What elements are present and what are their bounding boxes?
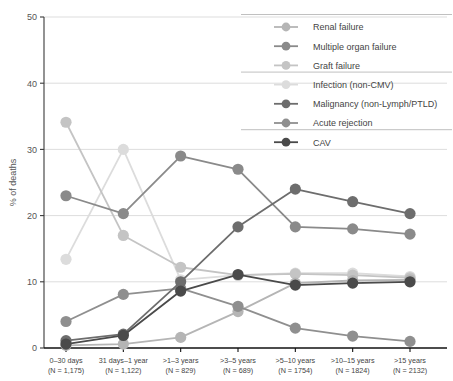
data-point: [60, 117, 71, 128]
x-tick-label: >3–5 years: [220, 356, 256, 365]
data-point: [60, 254, 71, 265]
data-point: [60, 190, 71, 201]
x-tick-sublabel: (N = 1824): [336, 366, 370, 375]
legend-label: CAV: [313, 138, 331, 148]
x-tick-label: 31 days–1 year: [99, 356, 149, 365]
y-tick-label: 30: [27, 145, 37, 155]
legend-label: Renal failure: [313, 22, 364, 32]
data-point: [290, 184, 301, 195]
x-tick-sublabel: (N = 2132): [393, 366, 427, 375]
data-point: [347, 278, 358, 289]
legend-swatch-marker: [282, 61, 291, 70]
data-point: [175, 262, 186, 273]
data-point: [232, 164, 243, 175]
data-point: [404, 229, 415, 240]
data-point: [60, 338, 71, 349]
legend-swatch-marker: [282, 138, 291, 147]
legend-swatch-marker: [282, 119, 291, 128]
legend-item[interactable]: CAV: [274, 138, 331, 148]
x-tick-label: >5–10 years: [275, 356, 315, 365]
data-point: [118, 230, 129, 241]
x-tick-sublabel: (N = 829): [166, 366, 196, 375]
x-tick-sublabel: (N = 1,175): [48, 366, 84, 375]
legend-item[interactable]: Acute rejection: [274, 118, 373, 128]
y-tick-label: 40: [27, 79, 37, 89]
legend-label: Infection (non-CMV): [313, 80, 394, 90]
x-tick-label: >1–3 years: [163, 356, 199, 365]
data-point: [290, 323, 301, 334]
series-line: [66, 122, 410, 278]
data-point: [347, 196, 358, 207]
legend-label: Multiple organ failure: [313, 42, 397, 52]
data-point: [232, 269, 243, 280]
legend-swatch-marker: [282, 42, 291, 51]
data-point: [290, 221, 301, 232]
data-point: [175, 150, 186, 161]
data-point: [175, 285, 186, 296]
data-point: [232, 221, 243, 232]
data-point: [232, 301, 243, 312]
data-point: [290, 280, 301, 291]
x-axis: 0–30 days(N = 1,175)31 days–1 year(N = 1…: [44, 348, 447, 375]
x-tick-sublabel: (N = 689): [223, 366, 253, 375]
x-tick-sublabel: (N = 1,122): [105, 366, 141, 375]
x-tick-label: >10–15 years: [331, 356, 375, 365]
y-tick-label: 20: [27, 211, 37, 221]
line-chart: 01020304050% of deaths0–30 days(N = 1,17…: [0, 0, 453, 381]
y-tick-label: 50: [27, 12, 37, 22]
y-tick-label: 0: [32, 343, 37, 353]
data-point: [404, 208, 415, 219]
data-point: [347, 330, 358, 341]
data-point: [118, 330, 129, 341]
data-point: [347, 223, 358, 234]
legend-swatch-marker: [282, 99, 291, 108]
legend-item[interactable]: Infection (non-CMV): [274, 80, 394, 90]
y-axis-title: % of deaths: [8, 158, 18, 206]
x-tick-label: 0–30 days: [49, 356, 83, 365]
grid-lines: [44, 17, 447, 282]
legend-item[interactable]: Malignancy (non-Lymph/PTLD): [274, 99, 437, 109]
legend: Renal failureMultiple organ failureGraft…: [241, 15, 452, 148]
chart-container: 01020304050% of deaths0–30 days(N = 1,17…: [0, 0, 453, 381]
legend-item[interactable]: Multiple organ failure: [274, 42, 397, 52]
y-tick-label: 10: [27, 277, 37, 287]
data-point: [404, 276, 415, 287]
series-renal-failure: [60, 274, 415, 351]
legend-item[interactable]: Graft failure: [274, 61, 360, 71]
data-point: [404, 336, 415, 347]
data-point: [118, 208, 129, 219]
legend-label: Graft failure: [313, 61, 360, 71]
x-tick-sublabel: (N = 1754): [278, 366, 312, 375]
legend-swatch-marker: [282, 80, 291, 89]
x-tick-label: >15 years: [394, 356, 426, 365]
legend-label: Malignancy (non-Lymph/PTLD): [313, 99, 437, 109]
legend-item[interactable]: Renal failure: [274, 22, 364, 32]
y-axis: 01020304050: [27, 12, 44, 353]
legend-swatch-marker: [282, 23, 291, 32]
data-point: [175, 332, 186, 343]
series-graft-failure: [60, 117, 415, 284]
series-group: [60, 117, 415, 351]
data-point: [118, 144, 129, 155]
legend-label: Acute rejection: [313, 118, 373, 128]
data-point: [60, 316, 71, 327]
series-malignancy-non-lymph-ptld: [60, 184, 415, 347]
data-point: [118, 289, 129, 300]
